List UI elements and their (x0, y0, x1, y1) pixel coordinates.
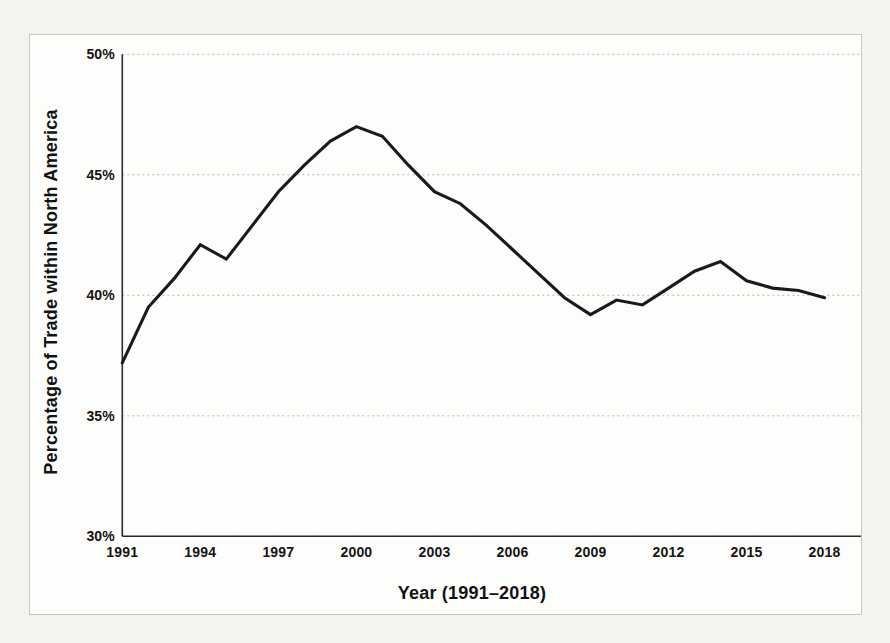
x-tick-label: 2003 (404, 543, 464, 561)
y-tick-label: 35% (55, 407, 115, 425)
x-tick-label: 2012 (639, 543, 699, 561)
chart-page: 50%45%40%35%30% 199119941997200020032006… (0, 0, 890, 643)
x-tick-label: 1991 (92, 543, 152, 561)
x-tick-label: 2000 (326, 543, 386, 561)
y-tick-label: 40% (55, 286, 115, 304)
trade-percentage-line (122, 127, 824, 363)
y-tick-label: 45% (55, 166, 115, 184)
x-tick-label: 2006 (482, 543, 542, 561)
y-axis-title: Percentage of Trade within North America (41, 109, 62, 474)
x-tick-label: 2015 (717, 543, 777, 561)
x-tick-label: 2018 (795, 543, 855, 561)
x-axis-title: Year (1991–2018) (122, 583, 822, 604)
x-tick-label: 1994 (170, 543, 230, 561)
y-tick-label: 50% (55, 45, 115, 63)
x-tick-label: 2009 (560, 543, 620, 561)
x-tick-label: 1997 (248, 543, 308, 561)
